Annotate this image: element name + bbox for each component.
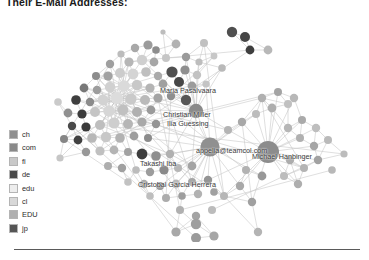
graph-node[interactable]: [152, 120, 160, 128]
graph-node[interactable]: [140, 95, 150, 105]
graph-node[interactable]: [56, 154, 63, 161]
graph-node[interactable]: [101, 132, 111, 142]
graph-node[interactable]: [54, 98, 62, 106]
graph-node[interactable]: [312, 124, 320, 132]
graph-node[interactable]: [194, 190, 202, 198]
graph-node[interactable]: [254, 228, 262, 236]
legend-item[interactable]: jp: [9, 222, 55, 235]
graph-node[interactable]: [64, 109, 73, 118]
graph-node[interactable]: [162, 54, 170, 62]
graph-node[interactable]: [86, 98, 94, 106]
graph-node[interactable]: [218, 64, 226, 72]
graph-node[interactable]: [131, 44, 139, 52]
graph-node[interactable]: [296, 134, 304, 142]
graph-node[interactable]: [145, 83, 154, 92]
graph-node[interactable]: [150, 58, 159, 67]
graph-node[interactable]: [171, 227, 180, 236]
graph-node[interactable]: [294, 180, 302, 188]
graph-node[interactable]: [103, 71, 112, 80]
graph-node[interactable]: [166, 150, 174, 158]
graph-node[interactable]: [191, 219, 201, 229]
graph-node[interactable]: [180, 65, 189, 74]
graph-node[interactable]: [238, 118, 246, 126]
graph-node[interactable]: [268, 104, 277, 113]
graph-node[interactable]: [152, 46, 160, 54]
graph-node[interactable]: [128, 69, 139, 80]
graph-node[interactable]: [182, 53, 190, 61]
graph-node[interactable]: [74, 136, 83, 145]
graph-node[interactable]: [200, 39, 208, 47]
graph-node[interactable]: [98, 95, 109, 106]
graph-node[interactable]: [124, 178, 132, 186]
graph-node[interactable]: [298, 116, 306, 124]
graph-node[interactable]: [188, 162, 197, 171]
graph-node[interactable]: [108, 117, 119, 128]
graph-node[interactable]: [224, 126, 232, 134]
legend-item[interactable]: fi: [9, 155, 55, 168]
graph-node[interactable]: [314, 156, 322, 164]
graph-node[interactable]: [71, 95, 81, 105]
graph-node[interactable]: [209, 231, 218, 240]
legend-item[interactable]: EDU: [9, 208, 55, 221]
graph-node[interactable]: [118, 164, 126, 172]
graph-node[interactable]: [166, 66, 177, 77]
graph-node[interactable]: [115, 68, 125, 78]
legend-item[interactable]: com: [9, 141, 55, 154]
graph-node[interactable]: [87, 133, 97, 143]
graph-node[interactable]: [68, 122, 76, 130]
graph-node[interactable]: [124, 57, 133, 66]
graph-node[interactable]: [132, 80, 142, 90]
graph-node[interactable]: [210, 188, 218, 196]
graph-node[interactable]: [95, 120, 105, 130]
graph-node[interactable]: [103, 105, 115, 117]
graph-node[interactable]: [240, 32, 250, 42]
graph-node[interactable]: [300, 164, 308, 172]
graph-node[interactable]: [172, 40, 181, 49]
graph-node[interactable]: [92, 72, 100, 80]
graph-node[interactable]: [81, 122, 90, 131]
graph-node[interactable]: [324, 136, 332, 144]
graph-node[interactable]: [178, 192, 186, 200]
graph-node[interactable]: [110, 146, 119, 155]
graph-node[interactable]: [154, 72, 162, 80]
graph-node[interactable]: [252, 110, 260, 118]
graph-node[interactable]: [147, 106, 156, 115]
graph-node[interactable]: [328, 166, 336, 174]
graph-node[interactable]: [227, 27, 237, 37]
graph-node[interactable]: [236, 182, 244, 190]
graph-node[interactable]: [290, 94, 298, 102]
graph-node[interactable]: [162, 194, 170, 202]
graph-node[interactable]: [181, 95, 191, 105]
graph-node[interactable]: [246, 46, 255, 55]
legend-item[interactable]: edu: [9, 182, 55, 195]
graph-node[interactable]: [60, 135, 68, 143]
graph-node[interactable]: [284, 100, 292, 108]
legend-item[interactable]: cl: [9, 195, 55, 208]
graph-node[interactable]: [284, 124, 292, 132]
legend-item[interactable]: de: [9, 168, 55, 181]
graph-node[interactable]: [141, 67, 151, 77]
graph-node[interactable]: [124, 148, 132, 156]
graph-node[interactable]: [80, 84, 89, 93]
graph-node[interactable]: [264, 46, 273, 55]
graph-node[interactable]: [90, 107, 100, 117]
graph-node[interactable]: [144, 134, 152, 142]
graph-node[interactable]: [146, 168, 154, 176]
graph-node[interactable]: [340, 150, 347, 157]
graph-node[interactable]: [242, 166, 250, 174]
graph-node[interactable]: [220, 192, 228, 200]
graph-node[interactable]: [105, 82, 115, 92]
graph-node[interactable]: [137, 55, 147, 65]
graph-node[interactable]: [310, 142, 318, 150]
graph-node[interactable]: [195, 58, 202, 65]
graph-node[interactable]: [211, 53, 218, 60]
graph-node[interactable]: [208, 206, 216, 214]
graph-node[interactable]: [193, 71, 201, 79]
graph-node[interactable]: [132, 107, 142, 117]
graph-node[interactable]: [106, 60, 114, 68]
graph-node[interactable]: [137, 149, 148, 160]
graph-node[interactable]: [82, 148, 90, 156]
graph-node[interactable]: [280, 172, 288, 180]
graph-node[interactable]: [146, 192, 154, 200]
graph-node[interactable]: [117, 50, 124, 57]
